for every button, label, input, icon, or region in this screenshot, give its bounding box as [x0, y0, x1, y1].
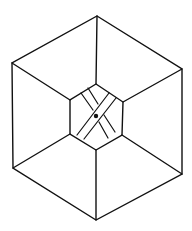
- back-band-line: [81, 93, 93, 110]
- back-band-line: [88, 88, 98, 104]
- hexagon-figure: [0, 0, 192, 231]
- back-band-line: [99, 122, 108, 138]
- radial-edge: [96, 16, 97, 84]
- radial-edge: [123, 69, 182, 102]
- radial-edge: [12, 63, 70, 100]
- back-band-line: [104, 115, 115, 132]
- hexagon-diagram: [0, 0, 192, 231]
- radial-edge: [122, 135, 182, 174]
- back-band: [81, 88, 115, 138]
- radial-edges: [12, 16, 182, 220]
- radial-edge: [13, 134, 70, 168]
- center-dot: [94, 114, 98, 118]
